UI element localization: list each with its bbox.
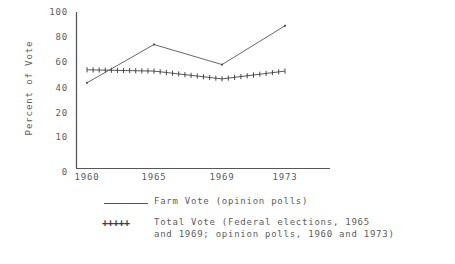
legend-entry-total-vote: +++++ Total Vote (Federal elections, 196… [100, 217, 450, 240]
chart-legend: Farm Vote (opinion polls) +++++ Total Vo… [100, 196, 450, 248]
chart-figure: Percent of Vote 100 80 60 40 20 10 0 196… [0, 0, 455, 264]
legend-label-farm-vote: Farm Vote (opinion polls) [154, 196, 308, 208]
series-total-vote [87, 67, 285, 81]
legend-line-swatch-icon [100, 196, 154, 209]
legend-label-total-vote: Total Vote (Federal elections, 1965 and … [154, 217, 395, 240]
legend-plus-swatch-icon: +++++ [100, 217, 154, 230]
legend-plus-symbol: +++++ [102, 217, 130, 228]
legend-entry-farm-vote: Farm Vote (opinion polls) [100, 196, 450, 209]
